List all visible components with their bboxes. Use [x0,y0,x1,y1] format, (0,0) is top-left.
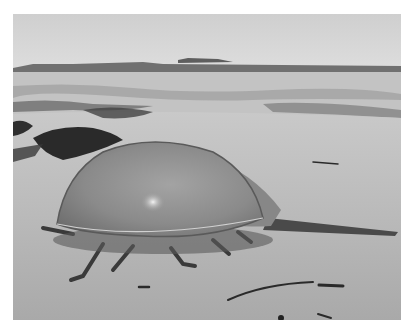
beach-photo [13,14,401,320]
horseshoe-crab-scene [13,14,401,320]
